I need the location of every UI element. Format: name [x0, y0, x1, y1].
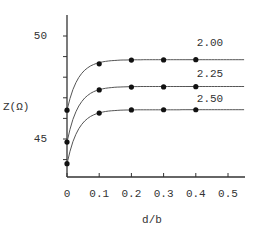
series-label-2-25: 2.25	[197, 68, 223, 80]
data-point	[129, 84, 134, 89]
data-point	[97, 61, 102, 66]
data-point	[193, 57, 198, 62]
data-point	[97, 87, 102, 92]
x-tick-label: 0.2	[121, 188, 141, 200]
data-point	[97, 110, 102, 115]
x-tick-label: 0	[64, 188, 71, 200]
y-axis-label: Z(Ω)	[3, 101, 29, 113]
data-point	[161, 107, 166, 112]
data-point	[193, 84, 198, 89]
data-points	[64, 57, 198, 166]
data-point	[64, 139, 69, 144]
x-axis-label: d/b	[142, 214, 162, 226]
y-tick-label-45: 45	[34, 133, 47, 145]
data-point	[193, 107, 198, 112]
series-curve-2-50	[67, 110, 244, 164]
chart: 00.10.20.30.40.5 50 45 Z(Ω) d/b 2.00 2.2…	[0, 0, 258, 233]
data-point	[64, 161, 69, 166]
series-label-2-00: 2.00	[197, 37, 223, 49]
data-point	[161, 57, 166, 62]
x-tick-label: 0.4	[186, 188, 206, 200]
x-tick-label: 0.3	[154, 188, 174, 200]
y-tick-label-50: 50	[34, 30, 47, 42]
x-tick-label: 0.5	[218, 188, 238, 200]
data-point	[64, 108, 69, 113]
series-label-2-50: 2.50	[197, 93, 223, 105]
data-point	[161, 84, 166, 89]
data-point	[129, 58, 134, 63]
x-tick-label: 0.1	[89, 188, 109, 200]
data-point	[129, 107, 134, 112]
